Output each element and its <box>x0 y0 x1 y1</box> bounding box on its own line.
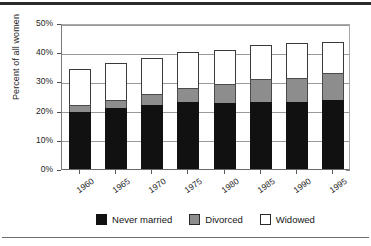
bar-segment[interactable] <box>141 105 163 169</box>
y-axis-tick-label: 40% <box>19 48 53 57</box>
legend-item[interactable]: Widowed <box>260 214 315 225</box>
stacked-bar[interactable] <box>141 58 163 169</box>
stacked-bar[interactable] <box>286 43 308 169</box>
legend-swatch-icon <box>96 214 107 225</box>
y-axis-tick-label: 20% <box>19 107 53 116</box>
bar-segment[interactable] <box>105 63 127 100</box>
stacked-bar[interactable] <box>69 69 91 169</box>
chart-legend: Never marriedDivorcedWidowed <box>61 214 350 225</box>
y-axis-tick-label: 10% <box>19 136 53 145</box>
plot-area <box>61 24 350 170</box>
legend-label: Divorced <box>205 214 243 225</box>
bar-segment[interactable] <box>322 100 344 169</box>
legend-item[interactable]: Never married <box>96 214 172 225</box>
stacked-bar[interactable] <box>177 52 199 169</box>
stacked-bar[interactable] <box>250 45 272 169</box>
bar-segment[interactable] <box>322 42 344 74</box>
x-axis-tick-mark <box>187 170 188 174</box>
stacked-bar[interactable] <box>322 42 344 169</box>
bar-segment[interactable] <box>177 88 199 102</box>
y-axis-tick-label: 30% <box>19 77 53 86</box>
bar-segment[interactable] <box>250 79 272 102</box>
x-axis-tick-mark <box>260 170 261 174</box>
stacked-bar[interactable] <box>105 63 127 169</box>
legend-item[interactable]: Divorced <box>189 214 243 225</box>
legend-label: Never married <box>112 214 172 225</box>
bar-segment[interactable] <box>69 105 91 112</box>
bar-segment[interactable] <box>69 112 91 169</box>
x-axis-tick-mark <box>151 170 152 174</box>
bar-segment[interactable] <box>141 94 163 105</box>
bar-segment[interactable] <box>177 102 199 169</box>
legend-swatch-icon <box>189 214 200 225</box>
x-axis-tick-mark <box>115 170 116 174</box>
legend-swatch-icon <box>260 214 271 225</box>
bar-segment[interactable] <box>214 103 236 169</box>
bar-segment[interactable] <box>286 43 308 77</box>
bar-segment[interactable] <box>322 73 344 100</box>
x-axis-tick-mark <box>79 170 80 174</box>
bar-segment[interactable] <box>105 100 127 108</box>
x-axis-tick-mark <box>224 170 225 174</box>
bar-segment[interactable] <box>250 102 272 169</box>
bar-segment[interactable] <box>177 52 199 87</box>
y-axis-tick-label: 0% <box>19 165 53 174</box>
bar-segment[interactable] <box>214 50 236 84</box>
bar-segment[interactable] <box>250 45 272 80</box>
x-axis-tick-mark <box>296 170 297 174</box>
stacked-bar[interactable] <box>214 50 236 169</box>
bar-segment[interactable] <box>286 102 308 169</box>
bar-segment[interactable] <box>69 69 91 105</box>
bar-series-group <box>62 25 349 169</box>
y-axis-tick-mark-right <box>346 170 350 171</box>
y-axis-tick-label: 50% <box>19 19 53 28</box>
x-axis-tick-mark <box>332 170 333 174</box>
bar-segment[interactable] <box>141 58 163 94</box>
bar-segment[interactable] <box>214 84 236 103</box>
figure: Percent of all women 0%10%20%30%40%50% 1… <box>0 0 371 246</box>
bar-segment[interactable] <box>105 108 127 169</box>
bar-segment[interactable] <box>286 78 308 103</box>
y-axis-tick-mark <box>57 170 61 171</box>
legend-label: Widowed <box>276 214 315 225</box>
